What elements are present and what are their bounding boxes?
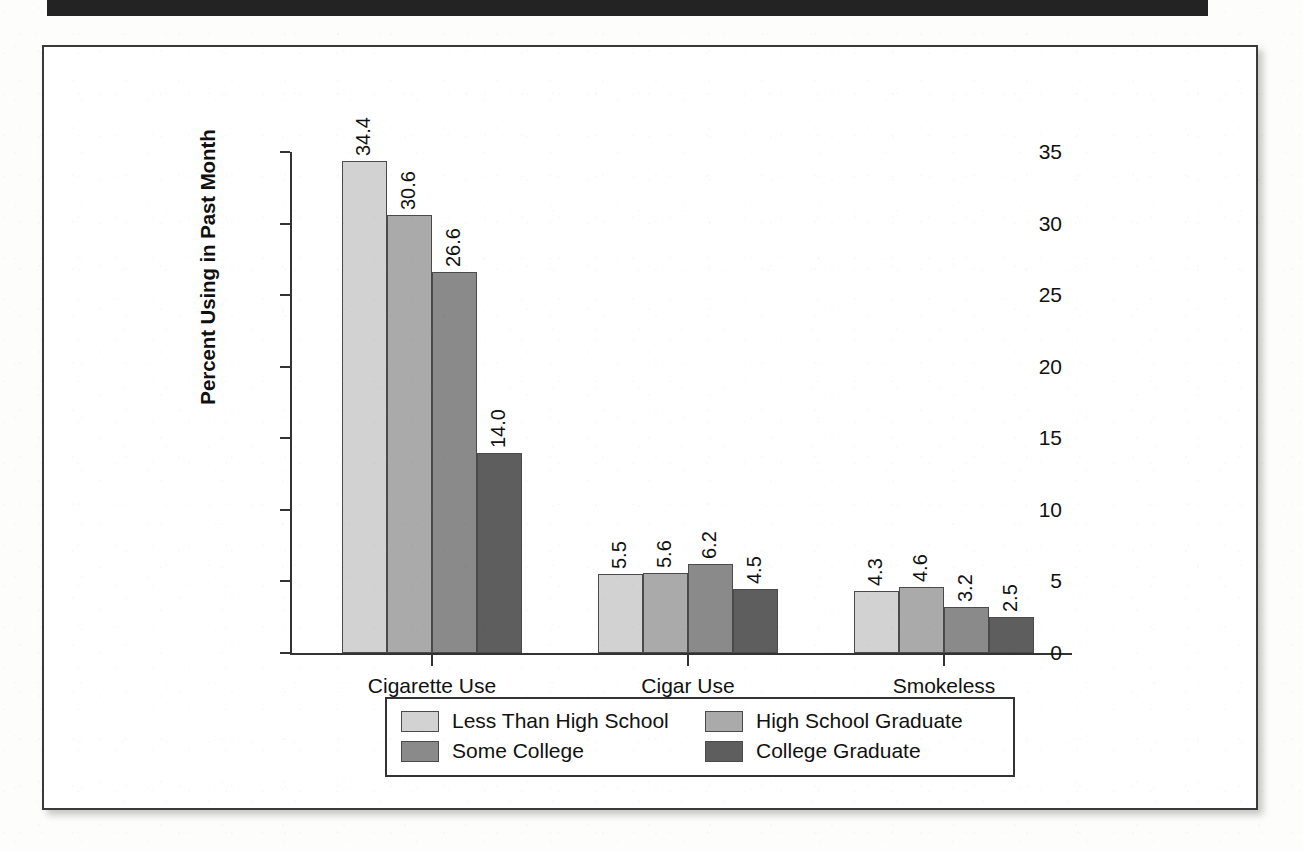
- bar-value-label: 34.4: [352, 117, 375, 156]
- y-axis-tick: [280, 294, 290, 296]
- x-axis-line: [290, 653, 1072, 655]
- bar: 30.6: [387, 215, 432, 653]
- bar-value-label: 3.2: [954, 574, 977, 602]
- bar-value-label: 6.2: [698, 531, 721, 559]
- top-black-band: [47, 0, 1208, 16]
- bar-value-label: 4.3: [864, 559, 887, 587]
- y-axis-tick: [280, 366, 290, 368]
- legend-item: High School Graduate: [705, 709, 999, 733]
- legend-item: College Graduate: [705, 739, 999, 763]
- legend-label: College Graduate: [756, 739, 921, 763]
- y-axis-tick: [280, 509, 290, 511]
- y-axis-tick: [280, 223, 290, 225]
- bar: 26.6: [432, 272, 477, 653]
- bar: 5.5: [598, 574, 643, 653]
- bar: 14.0: [477, 453, 522, 653]
- legend-swatch: [401, 741, 439, 762]
- bar: 2.5: [989, 617, 1034, 653]
- bar: 3.2: [944, 607, 989, 653]
- legend-label: Less Than High School: [452, 709, 669, 733]
- bar-value-label: 4.5: [743, 556, 766, 584]
- legend-label: Some College: [452, 739, 584, 763]
- legend-swatch: [401, 711, 439, 732]
- legend-swatch: [705, 711, 743, 732]
- plot-area: 05101520253035 34.430.626.614.05.55.66.2…: [290, 77, 1080, 625]
- y-axis-title: Percent Using in Past Month: [196, 17, 220, 517]
- bar-value-label: 5.6: [653, 540, 676, 568]
- x-axis-category-label: Cigar Use: [641, 673, 734, 699]
- chart-panel: Percent Using in Past Month 051015202530…: [42, 45, 1258, 810]
- bar-value-label: 5.5: [608, 541, 631, 569]
- chart-legend: Less Than High SchoolHigh School Graduat…: [385, 697, 1015, 777]
- y-axis-tick-label: 0: [1050, 641, 1062, 665]
- bar-value-label: 14.0: [487, 409, 510, 448]
- bar: 4.6: [899, 587, 944, 653]
- x-axis-tick: [431, 655, 433, 666]
- y-axis-tick: [280, 437, 290, 439]
- legend-item: Some College: [401, 739, 695, 763]
- bar-value-label: 4.6: [909, 554, 932, 582]
- x-axis-tick: [943, 655, 945, 666]
- y-axis-tick-label: 20: [1039, 355, 1062, 379]
- y-axis-tick-label: 35: [1039, 140, 1062, 164]
- legend-label: High School Graduate: [756, 709, 963, 733]
- y-axis-tick: [280, 652, 290, 654]
- bar: 4.5: [733, 589, 778, 653]
- y-axis-tick-label: 10: [1039, 498, 1062, 522]
- x-axis-category-label: Cigarette Use: [368, 673, 496, 699]
- y-axis-line: [290, 152, 292, 655]
- bar-value-label: 2.5: [999, 584, 1022, 612]
- y-axis-tick-label: 15: [1039, 426, 1062, 450]
- y-axis-tick: [280, 151, 290, 153]
- y-axis-tick: [280, 580, 290, 582]
- bar-value-label: 30.6: [397, 171, 420, 210]
- x-axis-tick: [687, 655, 689, 666]
- y-axis-tick-label: 5: [1050, 569, 1062, 593]
- bar: 6.2: [688, 564, 733, 653]
- y-axis-tick-label: 25: [1039, 283, 1062, 307]
- bar: 5.6: [643, 573, 688, 653]
- y-axis-tick-label: 30: [1039, 212, 1062, 236]
- legend-item: Less Than High School: [401, 709, 695, 733]
- bar-value-label: 26.6: [442, 228, 465, 267]
- bar: 34.4: [342, 161, 387, 653]
- bar: 4.3: [854, 591, 899, 653]
- legend-swatch: [705, 741, 743, 762]
